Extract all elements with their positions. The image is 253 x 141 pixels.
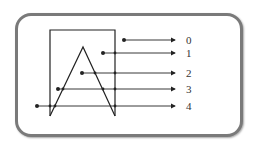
intersection-point — [62, 88, 65, 91]
ray-label: 3 — [186, 83, 192, 95]
ray-3: 3 — [56, 83, 192, 95]
intersection-point — [114, 52, 117, 55]
ray-label: 0 — [186, 34, 192, 46]
ray-label: 2 — [186, 67, 192, 79]
ray-origin-point — [80, 71, 84, 75]
ray-label: 4 — [186, 100, 192, 112]
ray-label: 1 — [186, 47, 192, 59]
ray-origin-point — [56, 87, 60, 91]
intersection-point — [114, 72, 117, 75]
ray-casting-diagram: 01234 — [0, 0, 253, 141]
intersection-point — [49, 105, 52, 108]
ray-origin-point — [122, 38, 126, 42]
ray-4: 4 — [35, 100, 192, 112]
intersection-point — [114, 105, 117, 108]
ray-origin-point — [35, 104, 39, 108]
intersection-point — [94, 72, 97, 75]
intersection-point — [102, 88, 105, 91]
ray-origin-point — [101, 51, 105, 55]
intersection-point — [114, 88, 117, 91]
ray-0: 0 — [122, 34, 192, 46]
intersection-point — [54, 105, 57, 108]
